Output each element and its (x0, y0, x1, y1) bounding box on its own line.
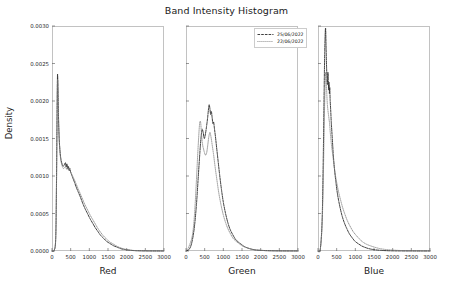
panel-frame (319, 27, 430, 251)
chart-title: Band Intensity Histogram (0, 5, 453, 16)
figure-canvas: Band Intensity Histogram Density 25/06/2… (0, 0, 453, 287)
x-tick-label: 3000 (419, 254, 441, 260)
x-tick-label: 3000 (287, 254, 309, 260)
legend-line-swatch (257, 39, 274, 44)
legend-item: 25/06/2022 (257, 31, 303, 38)
legend-label: 22/06/2022 (277, 38, 303, 45)
y-tick-label: 0.0015 (20, 136, 49, 142)
x-axis-label-red: Red (52, 266, 164, 276)
y-axis-label: Density (4, 88, 14, 158)
legend-line-swatch (257, 32, 274, 37)
panel-red (52, 26, 164, 251)
y-tick-label: 0.0025 (20, 61, 49, 67)
panel-frame (187, 27, 298, 251)
panel-frame (53, 27, 164, 251)
x-tick-label: 3000 (153, 254, 175, 260)
panel-blue (318, 26, 430, 251)
x-axis-label-green: Green (186, 266, 298, 276)
y-tick-label: 0.0020 (20, 98, 49, 104)
y-tick-label: 0.0030 (20, 23, 49, 29)
y-tick-label: 0.0005 (20, 211, 49, 217)
legend-label: 25/06/2022 (277, 31, 303, 38)
y-tick-label: 0.0010 (20, 173, 49, 179)
panel-green (186, 26, 298, 251)
legend-item: 22/06/2022 (257, 38, 303, 45)
legend: 25/06/202222/06/2022 (254, 28, 307, 48)
x-axis-label-blue: Blue (318, 266, 430, 276)
y-tick-label: 0.0000 (20, 248, 49, 254)
